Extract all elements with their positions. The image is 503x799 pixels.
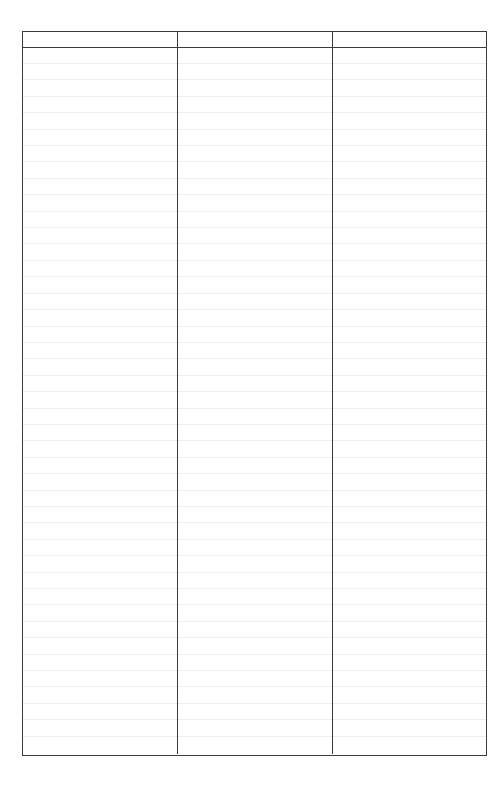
table-cell	[177, 622, 332, 637]
table-cell	[332, 589, 486, 604]
table-cell	[332, 195, 486, 210]
table-cell	[332, 130, 486, 145]
table-cell	[23, 589, 177, 604]
table-row	[23, 622, 486, 638]
table-row	[23, 556, 486, 572]
table-cell	[23, 162, 177, 177]
table-row	[23, 687, 486, 703]
table-row	[23, 277, 486, 293]
table-cell	[177, 474, 332, 489]
table-header-row	[23, 32, 486, 48]
table-cell	[23, 244, 177, 259]
table-cell	[177, 146, 332, 161]
table-cell	[332, 261, 486, 276]
table-cell	[23, 212, 177, 227]
table-cell	[23, 277, 177, 292]
table-cell	[332, 359, 486, 374]
table-cell	[23, 97, 177, 112]
table-cell	[332, 179, 486, 194]
table-row	[23, 261, 486, 277]
table-cell	[23, 507, 177, 522]
table-row	[23, 671, 486, 687]
table-cell	[177, 359, 332, 374]
table-cell	[177, 80, 332, 95]
table-cell	[177, 261, 332, 276]
table-row	[23, 113, 486, 129]
table-row	[23, 720, 486, 736]
table-cell	[23, 146, 177, 161]
table-cell	[23, 638, 177, 653]
table-cell	[332, 80, 486, 95]
table-row	[23, 228, 486, 244]
table-cell	[177, 589, 332, 604]
table-cell	[23, 409, 177, 424]
table-cell	[177, 179, 332, 194]
table-cell	[177, 376, 332, 391]
table-cell	[332, 113, 486, 128]
table-cell	[23, 441, 177, 456]
table-cell	[23, 343, 177, 358]
table-cell	[23, 261, 177, 276]
table-cell	[332, 294, 486, 309]
table-cell	[177, 64, 332, 79]
table-cell	[23, 80, 177, 95]
table-row	[23, 327, 486, 343]
table-cell	[23, 704, 177, 719]
table-cell	[332, 540, 486, 555]
table-cell	[332, 97, 486, 112]
table-cell	[23, 540, 177, 555]
table-cell	[23, 376, 177, 391]
table-cell	[23, 655, 177, 670]
table-row	[23, 507, 486, 523]
table-cell	[177, 310, 332, 325]
table-cell	[332, 327, 486, 342]
table-cell	[177, 343, 332, 358]
table-cell	[23, 458, 177, 473]
table-cell	[177, 97, 332, 112]
table-row	[23, 343, 486, 359]
table-cell	[177, 130, 332, 145]
table-cell	[332, 64, 486, 79]
table-cell	[177, 737, 332, 753]
table-row	[23, 605, 486, 621]
table-row	[23, 64, 486, 80]
table-cell	[332, 655, 486, 670]
table-row	[23, 48, 486, 64]
table-cell	[23, 671, 177, 686]
table-row	[23, 573, 486, 589]
table-cell	[23, 720, 177, 735]
table-row	[23, 195, 486, 211]
table-row	[23, 80, 486, 96]
table-cell	[177, 605, 332, 620]
table-cell	[177, 113, 332, 128]
table-row	[23, 294, 486, 310]
table-body	[23, 48, 486, 754]
table-cell	[332, 720, 486, 735]
table-cell	[177, 704, 332, 719]
table-cell	[332, 228, 486, 243]
table-cell	[23, 359, 177, 374]
data-table	[22, 31, 487, 756]
table-row	[23, 409, 486, 425]
table-row	[23, 425, 486, 441]
table-cell	[177, 48, 332, 63]
table-row	[23, 392, 486, 408]
table-cell	[23, 392, 177, 407]
table-row	[23, 655, 486, 671]
table-row	[23, 441, 486, 457]
table-cell	[332, 622, 486, 637]
table-cell	[332, 573, 486, 588]
table-cell	[332, 458, 486, 473]
table-cell	[177, 687, 332, 702]
table-cell	[23, 491, 177, 506]
document-page	[0, 0, 503, 799]
table-cell	[332, 162, 486, 177]
table-cell	[332, 441, 486, 456]
table-cell	[23, 228, 177, 243]
table-cell	[332, 146, 486, 161]
table-cell	[177, 162, 332, 177]
table-cell	[332, 474, 486, 489]
table-cell	[177, 556, 332, 571]
table-cell	[177, 491, 332, 506]
table-cell	[332, 425, 486, 440]
